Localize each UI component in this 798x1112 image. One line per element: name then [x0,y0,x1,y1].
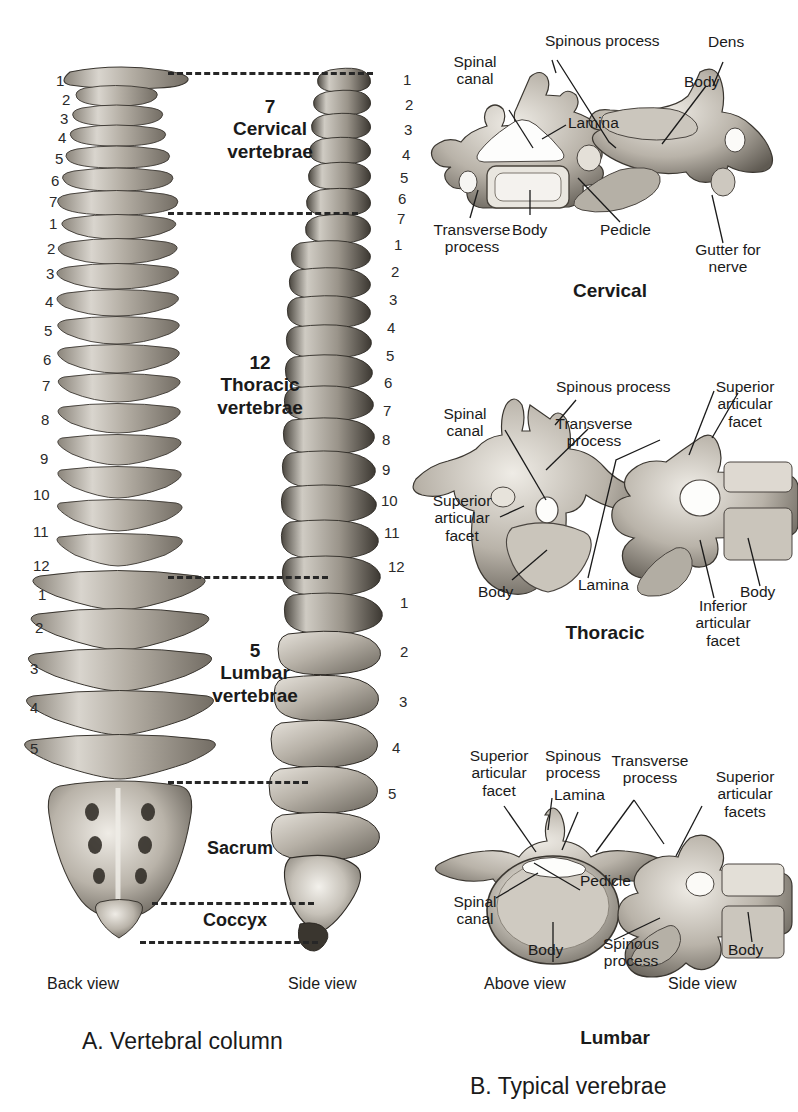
side-view-label: Side view [288,975,356,993]
cervical-label-gutter-for-nerve: Gutter for nerve [680,241,776,276]
back-thoracic-num-9: 9 [40,451,48,466]
side-thoracic-num-7: 7 [383,403,391,418]
lumbar-label-transverse-process: Transverse process [598,752,702,787]
region-label-coccyx: Coccyx [175,910,295,932]
lumbar-label-lamina: Lamina [554,786,605,803]
lumbar-label-superior-facets: Superior articular facets [700,768,790,820]
cervical-label-spinal-canal: Spinal canal [432,53,518,88]
divider-thoracic-bottom [168,576,328,579]
back-thoracic-num-12: 12 [33,558,50,573]
cervical-group-title: Cervical [540,280,680,302]
back-thoracic-num-1: 1 [49,216,57,231]
side-thoracic-num-6: 6 [384,375,392,390]
back-thoracic-num-5: 5 [44,323,52,338]
region-label-lumbar: 5 Lumbar vertebrae [190,640,320,707]
back-lumbar-num-4: 4 [30,700,38,715]
side-thoracic-num-9: 9 [382,462,390,477]
cervical-label-lamina: Lamina [568,114,619,131]
side-cervical-num-7: 7 [397,211,405,226]
divider-cervical-bottom [168,212,358,215]
divider-lumbar-bottom [168,781,308,784]
thoracic-count: 12 [195,352,325,374]
side-cervical-num-5: 5 [400,170,408,185]
thoracic-name-1: Thoracic [195,374,325,396]
panel-a-caption: A. Vertebral column [82,1028,283,1055]
back-thoracic-num-2: 2 [47,241,55,256]
cervical-name-1: Cervical [205,118,335,140]
lumbar-label-body-left: Body [528,941,563,958]
cervical-count: 7 [205,96,335,118]
divider-coccyx-bottom [140,941,318,944]
region-label-cervical: 7 Cervical vertebrae [205,96,335,163]
side-lumbar-num-2: 2 [400,644,408,659]
lumbar-group-title: Lumbar [540,1027,690,1049]
side-lumbar-num-3: 3 [399,694,407,709]
thoracic-label-body-left: Body [478,583,513,600]
side-cervical-num-3: 3 [404,122,412,137]
lumbar-label-spinal-canal: Spinal canal [432,893,518,928]
side-thoracic-num-8: 8 [382,432,390,447]
back-thoracic-num-10: 10 [33,487,50,502]
back-lumbar-num-5: 5 [30,741,38,756]
cervical-name-2: vertebrae [205,141,335,163]
region-label-thoracic: 12 Thoracic vertebrae [195,352,325,419]
thoracic-label-inferior-facet: Inferior articular facet [680,597,766,649]
back-cervical-num-1: 1 [56,73,64,88]
cervical-label-pedicle: Pedicle [600,221,651,238]
back-lumbar-num-2: 2 [35,620,43,635]
thoracic-side-view-artwork [612,435,798,596]
cervical-label-dens: Dens [708,33,744,50]
back-view-label: Back view [47,975,119,993]
side-thoracic-num-4: 4 [387,320,395,335]
lumbar-side-view-label: Side view [668,975,736,993]
back-lumbar-num-3: 3 [30,661,38,676]
side-lumbar-num-5: 5 [388,786,396,801]
back-thoracic-num-11: 11 [33,524,49,539]
side-thoracic-num-5: 5 [386,348,394,363]
back-thoracic-num-3: 3 [46,266,54,281]
lumbar-label-pedicle: Pedicle [580,872,631,889]
region-label-sacrum: Sacrum [180,838,300,860]
back-lumbar-num-1: 1 [38,587,46,602]
side-thoracic-num-3: 3 [389,292,397,307]
side-thoracic-num-11: 11 [384,525,400,540]
side-thoracic-num-12: 12 [388,559,405,574]
thoracic-label-superior-facet-right: Superior articular facet [700,378,790,430]
thoracic-label-spinal-canal: Spinal canal [422,405,508,440]
side-thoracic-num-1: 1 [394,237,402,252]
lumbar-label-spinous-process-bottom: Spinous process [588,935,674,970]
panel-b-caption: B. Typical verebrae [470,1073,666,1100]
back-thoracic-num-7: 7 [42,378,50,393]
back-thoracic-num-6: 6 [43,352,51,367]
lumbar-count: 5 [190,640,320,662]
back-cervical-num-7: 7 [49,194,57,209]
thoracic-label-superior-facet-left: Superior articular facet [420,492,504,544]
side-cervical-num-2: 2 [405,97,413,112]
back-cervical-num-6: 6 [51,173,59,188]
divider-cervical-top [168,72,373,75]
side-view-spine [269,68,382,951]
cervical-label-spinous-process: Spinous process [545,32,660,49]
thoracic-label-lamina: Lamina [578,576,629,593]
divider-sacrum-bottom [152,902,314,905]
cervical-label-body-right: Body [684,73,719,90]
side-lumbar-num-4: 4 [392,740,400,755]
thoracic-label-transverse-process: Transverse process [540,415,648,450]
lumbar-above-view-label: Above view [484,975,566,993]
back-cervical-num-4: 4 [58,130,66,145]
side-thoracic-num-10: 10 [381,493,398,508]
side-lumbar-num-1: 1 [400,595,408,610]
lumbar-label-body-right: Body [728,941,763,958]
side-cervical-num-1: 1 [403,72,411,87]
thoracic-label-spinous-process: Spinous process [556,378,671,395]
back-cervical-num-2: 2 [62,92,70,107]
lumbar-name-1: Lumbar [190,662,320,684]
side-cervical-num-6: 6 [398,191,406,206]
back-cervical-num-3: 3 [60,111,68,126]
back-thoracic-num-4: 4 [45,294,53,309]
vertebral-column-artwork [0,0,798,1112]
cervical-side-view-artwork [574,69,773,212]
back-cervical-num-5: 5 [55,151,63,166]
back-thoracic-num-8: 8 [41,412,49,427]
cervical-label-transverse-process: Transverse process [424,221,520,256]
